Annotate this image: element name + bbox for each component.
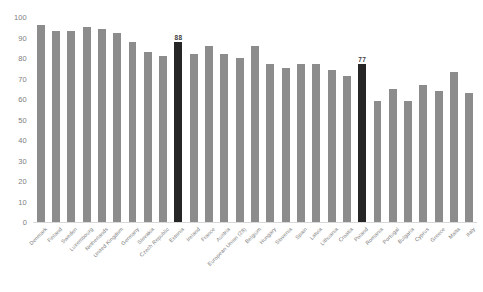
bar-slot: [113, 17, 121, 222]
x-axis-tick-label: Estonia: [168, 226, 185, 243]
bar[interactable]: [419, 85, 427, 222]
bar[interactable]: [83, 27, 91, 222]
bar-slot: [205, 17, 213, 222]
bar[interactable]: [328, 70, 336, 222]
bar-slot: [282, 17, 290, 222]
bar-slot: 77: [358, 17, 366, 222]
bar[interactable]: [266, 64, 274, 222]
bar[interactable]: [129, 42, 137, 222]
bar[interactable]: [374, 101, 382, 222]
x-axis-tick-label: Greece: [429, 226, 446, 243]
bar-slot: [144, 17, 152, 222]
bar[interactable]: [312, 64, 320, 222]
y-axis-tick: 50: [18, 115, 27, 124]
bar-slot: [389, 17, 397, 222]
bar[interactable]: [251, 46, 259, 222]
bar-slot: [220, 17, 228, 222]
bar[interactable]: [450, 72, 458, 222]
bar[interactable]: [113, 33, 121, 222]
bar[interactable]: [465, 93, 473, 222]
bar-slot: [435, 17, 443, 222]
bar-slot: [343, 17, 351, 222]
y-axis-tick: 70: [18, 74, 27, 83]
bar[interactable]: [343, 76, 351, 222]
x-axis-tick-label: Ireland: [185, 226, 201, 242]
bar-slot: [404, 17, 412, 222]
bar-value-label: 88: [175, 34, 183, 41]
y-axis-tick: 60: [18, 95, 27, 104]
x-axis-line: [33, 222, 477, 223]
y-axis-tick: 0: [23, 218, 27, 227]
x-axis-tick-label: Malta: [447, 226, 461, 240]
bar[interactable]: [190, 54, 198, 222]
bar-slot: [251, 17, 259, 222]
plot-area: 8877: [33, 17, 477, 222]
bar-slot: [83, 17, 91, 222]
x-axis-tick-label: France: [200, 226, 217, 243]
bar-slot: [266, 17, 274, 222]
bar-slot: [159, 17, 167, 222]
bar[interactable]: [435, 91, 443, 222]
y-axis-tick: 30: [18, 156, 27, 165]
bar[interactable]: [67, 31, 75, 222]
bar-slot: [98, 17, 106, 222]
bar-slot: [465, 17, 473, 222]
bar-value-label: 77: [358, 56, 366, 63]
bar-slot: [450, 17, 458, 222]
x-axis-tick-label: Italy: [465, 226, 477, 238]
bar-highlighted[interactable]: [174, 42, 182, 222]
bar-slot: [37, 17, 45, 222]
bar[interactable]: [37, 25, 45, 222]
bar[interactable]: [205, 46, 213, 222]
bar-slot: [52, 17, 60, 222]
bar-chart: 0102030405060708090100 8877 DenmarkFinla…: [0, 0, 483, 292]
bar[interactable]: [144, 52, 152, 222]
bar-slot: [190, 17, 198, 222]
bar-slot: [312, 17, 320, 222]
bar[interactable]: [404, 101, 412, 222]
y-axis-tick: 10: [18, 197, 27, 206]
bar[interactable]: [236, 58, 244, 222]
bar-slot: [236, 17, 244, 222]
y-axis-tick: 40: [18, 136, 27, 145]
bar-slot: [419, 17, 427, 222]
y-axis-tick: 80: [18, 54, 27, 63]
bar-slot: [67, 17, 75, 222]
y-axis-tick: 90: [18, 33, 27, 42]
y-axis-tick: 100: [14, 13, 27, 22]
x-axis-labels: DenmarkFinlandSwedenLuxembourgNetherland…: [33, 224, 477, 292]
x-axis-tick-label: Cyprus: [414, 226, 431, 243]
bar-slot: [297, 17, 305, 222]
bar-slot: [129, 17, 137, 222]
x-axis-tick-label: Croatia: [337, 226, 354, 243]
bar-slot: 88: [174, 17, 182, 222]
bar[interactable]: [98, 29, 106, 222]
y-axis-tick: 20: [18, 177, 27, 186]
bar-highlighted[interactable]: [358, 64, 366, 222]
bar-slot: [328, 17, 336, 222]
bar[interactable]: [159, 56, 167, 222]
bar[interactable]: [282, 68, 290, 222]
bar[interactable]: [389, 89, 397, 222]
bar[interactable]: [297, 64, 305, 222]
x-axis-tick-label: Spain: [294, 226, 308, 240]
bar[interactable]: [220, 54, 228, 222]
y-axis: 0102030405060708090100: [0, 0, 31, 292]
bar[interactable]: [52, 31, 60, 222]
bar-slot: [374, 17, 382, 222]
